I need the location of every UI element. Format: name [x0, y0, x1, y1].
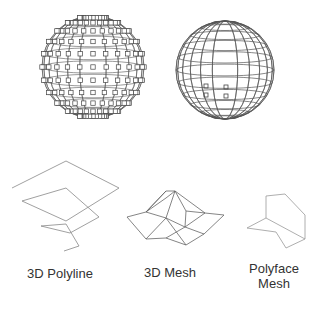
grip-square: [65, 29, 69, 33]
grip-square: [91, 52, 95, 56]
grip-square: [78, 78, 82, 82]
grip-square: [47, 90, 51, 94]
grip-square: [78, 114, 82, 118]
grip-square: [60, 90, 64, 94]
grip-square: [91, 21, 95, 25]
grip-square: [115, 78, 119, 82]
grip-square: [122, 90, 126, 94]
mesh-3d-shape: [127, 191, 224, 245]
grip-square: [47, 39, 51, 43]
grip-square: [138, 52, 142, 56]
grip-square: [82, 101, 86, 105]
grip-square: [113, 90, 117, 94]
grip-square: [104, 65, 108, 69]
grip-square: [42, 52, 46, 56]
grip-square: [109, 101, 113, 105]
grip-square: [100, 29, 104, 33]
grip-square: [134, 90, 138, 94]
grip-square: [65, 101, 69, 105]
grip-square: [91, 65, 95, 69]
polyface-mesh-label: Polyface Mesh: [234, 261, 314, 291]
grip-square: [113, 21, 117, 25]
grip-square: [104, 109, 108, 113]
grip-square: [134, 78, 138, 82]
grip-square: [78, 109, 82, 113]
grip-square: [65, 65, 69, 69]
grip-square: [102, 90, 106, 94]
grip-square: [78, 52, 82, 56]
grip-square: [109, 109, 113, 113]
polyface-mesh-shape: [247, 194, 305, 248]
mesh-label: 3D Mesh: [120, 265, 220, 280]
grip-square: [113, 109, 117, 113]
grip-square: [116, 65, 120, 69]
grip-square: [79, 39, 83, 43]
grip-square: [69, 90, 73, 94]
grip-square: [97, 109, 101, 113]
grip-square: [109, 21, 113, 25]
grip-square: [79, 90, 83, 94]
grip-square: [78, 16, 82, 20]
grip-square: [69, 39, 73, 43]
grip-square: [55, 29, 59, 33]
grip-square: [60, 39, 64, 43]
grip-square: [102, 39, 106, 43]
grip-square: [66, 78, 70, 82]
grip-square: [91, 90, 95, 94]
grip-square: [115, 52, 119, 56]
grip-square: [40, 65, 44, 69]
grip-square: [116, 101, 120, 105]
grip-square: [78, 21, 82, 25]
polyface-label-line2: Mesh: [234, 276, 314, 291]
grip-square: [126, 52, 130, 56]
grip-square: [84, 21, 88, 25]
grip-square: [48, 78, 52, 82]
grip-square: [53, 90, 57, 94]
grip-square: [48, 52, 52, 56]
polyline-label: 3D Polyline: [10, 266, 110, 281]
polyface-label-line1: Polyface: [234, 261, 314, 276]
grip-square: [122, 29, 126, 33]
grip-square: [78, 65, 82, 69]
grip-square: [65, 109, 69, 113]
grip-square: [104, 52, 108, 56]
grip-square: [56, 52, 60, 56]
grip-square: [104, 21, 108, 25]
grip-square: [91, 109, 95, 113]
grip-square: [73, 29, 77, 33]
grip-square: [66, 52, 70, 56]
grip-square: [91, 29, 95, 33]
grip-square: [84, 109, 88, 113]
grip-square: [91, 101, 95, 105]
grip-square: [55, 65, 59, 69]
grip-square: [55, 101, 59, 105]
grip-square: [127, 65, 131, 69]
polyline-3d-shape: [12, 161, 119, 251]
grip-square: [134, 52, 138, 56]
grip-square: [100, 101, 104, 105]
grip-squares: [204, 84, 228, 98]
grip-square: [91, 39, 95, 43]
grip-square: [126, 78, 130, 82]
grip-square: [135, 65, 139, 69]
grip-square: [122, 39, 126, 43]
grip-square: [73, 109, 77, 113]
grip-square: [65, 21, 69, 25]
grip-square: [109, 29, 113, 33]
grip-square: [53, 39, 57, 43]
grip-square: [140, 65, 144, 69]
grip-square: [82, 29, 86, 33]
grip-square: [138, 78, 142, 82]
grip-square: [97, 21, 101, 25]
grip-square: [47, 65, 51, 69]
grip-square: [104, 78, 108, 82]
grip-square: [129, 39, 133, 43]
grip-square: [56, 78, 60, 82]
grip-square: [122, 101, 126, 105]
grip-square: [91, 78, 95, 82]
sphere-wireframe: [176, 21, 274, 119]
grip-square: [73, 101, 77, 105]
grip-square: [73, 21, 77, 25]
grip-square: [116, 29, 120, 33]
grip-square: [42, 78, 46, 82]
